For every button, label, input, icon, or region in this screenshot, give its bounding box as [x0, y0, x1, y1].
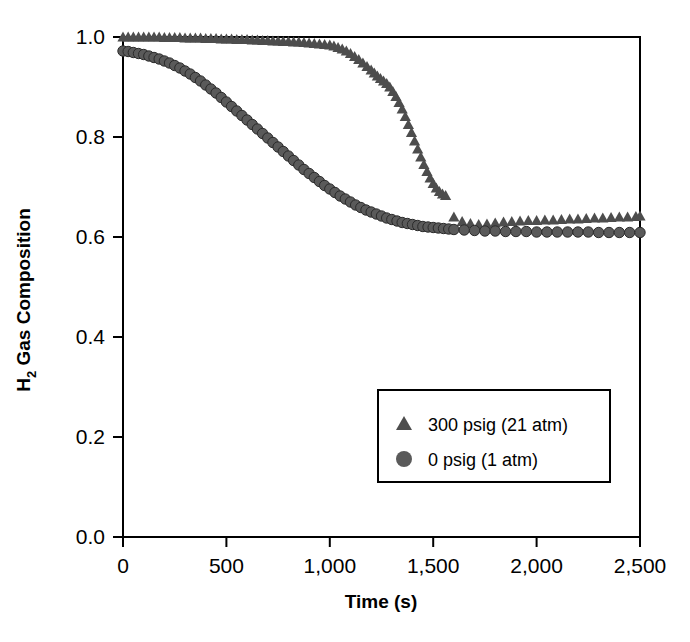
series-0-psig [118, 46, 645, 238]
data-point-circle [531, 227, 541, 237]
x-axis-ticks: 05001,0001,5002,0002,500 [117, 537, 666, 577]
x-tick-label: 1,500 [407, 554, 460, 577]
data-point-circle [635, 227, 645, 237]
y-tick-label: 0.2 [76, 425, 105, 448]
y-axis-title-rest: Gas Composition [13, 208, 34, 371]
y-axis-ticks: 0.00.20.40.60.81.0 [76, 25, 123, 548]
data-point-circle [521, 226, 531, 236]
y-axis-title-subscript: 2 [24, 371, 39, 378]
data-point-circle [500, 226, 510, 236]
data-point-circle [614, 227, 624, 237]
legend-label-1: 0 psig (1 atm) [428, 450, 538, 470]
legend-circle-icon [396, 451, 412, 467]
data-point-circle [624, 227, 634, 237]
y-tick-label: 1.0 [76, 25, 105, 48]
legend-label-0: 300 psig (21 atm) [428, 415, 568, 435]
data-point-circle [604, 227, 614, 237]
x-tick-label: 1,000 [304, 554, 357, 577]
data-point-circle [469, 225, 479, 235]
y-tick-label: 0.4 [76, 325, 106, 348]
data-point-circle [511, 226, 521, 236]
data-point-circle [573, 227, 583, 237]
y-tick-label: 0.0 [76, 525, 105, 548]
data-point-circle [459, 225, 469, 235]
data-point-circle [490, 226, 500, 236]
data-point-circle [480, 226, 490, 236]
legend: 300 psig (21 atm) 0 psig (1 atm) [378, 390, 610, 482]
series-300-psig [117, 31, 645, 229]
y-axis-title: H2 Gas Composition [13, 208, 39, 392]
y-axis-title-main: H [13, 378, 34, 392]
y-axis-title-text: H2 Gas Composition [13, 208, 39, 392]
x-axis-title: Time (s) [345, 591, 418, 612]
y-tick-label: 0.6 [76, 225, 105, 248]
h2-gas-composition-chart: 0.00.20.40.60.81.0 05001,0001,5002,0002,… [0, 0, 690, 642]
x-tick-label: 0 [117, 554, 129, 577]
data-point-circle [562, 227, 572, 237]
data-point-circle [593, 227, 603, 237]
x-tick-label: 500 [209, 554, 244, 577]
data-point-circle [542, 227, 552, 237]
data-point-circle [552, 227, 562, 237]
y-tick-label: 0.8 [76, 125, 105, 148]
data-point-circle [449, 224, 459, 234]
chart-figure: 0.00.20.40.60.81.0 05001,0001,5002,0002,… [0, 0, 690, 642]
data-point-circle [583, 227, 593, 237]
x-tick-label: 2,000 [510, 554, 563, 577]
data-point-triangle [448, 211, 459, 221]
x-tick-label: 2,500 [614, 554, 667, 577]
